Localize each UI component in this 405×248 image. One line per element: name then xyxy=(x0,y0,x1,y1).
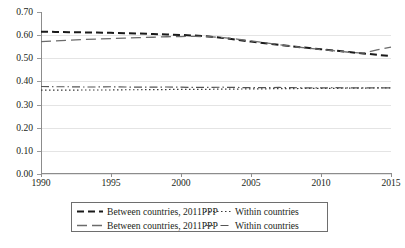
y-axis-tick xyxy=(37,105,41,106)
x-axis-tick-label: 2005 xyxy=(231,178,271,188)
x-axis-tick-label: 2015 xyxy=(371,178,405,188)
y-axis-tick xyxy=(37,151,41,152)
y-axis-tick-label: 0.10 xyxy=(0,146,33,156)
legend-item-label: Between countries, 2011PPP xyxy=(107,220,218,231)
gridline xyxy=(41,81,391,82)
y-axis-tick-label: 0.40 xyxy=(0,76,33,86)
y-axis-tick-label: 0.70 xyxy=(0,7,33,17)
x-axis-tick-label: 2010 xyxy=(301,178,341,188)
y-axis-tick xyxy=(37,12,41,13)
x-axis-tick-label: 1990 xyxy=(21,178,61,188)
x-axis-tick-label: 2000 xyxy=(161,178,201,188)
legend-item: Within countries xyxy=(204,218,299,232)
legend-item: Between countries, 2011PPP xyxy=(76,218,218,232)
legend-line-swatch xyxy=(204,220,232,231)
legend-item: Between countries, 2011PPP xyxy=(76,204,218,218)
legend-line-swatch xyxy=(204,206,232,217)
gridline xyxy=(41,58,391,59)
chart-legend: Between countries, 2011PPPWithin countri… xyxy=(71,202,328,232)
y-axis-tick-label: 0.20 xyxy=(0,123,33,133)
plot-area xyxy=(41,12,391,174)
gridline xyxy=(41,151,391,152)
legend-item-label: Within countries xyxy=(235,220,299,231)
legend-line-swatch xyxy=(76,206,104,217)
gridline xyxy=(41,35,391,36)
y-axis-tick xyxy=(37,58,41,59)
y-axis-line xyxy=(41,12,42,174)
gridline xyxy=(41,128,391,129)
legend-line-swatch xyxy=(76,220,104,231)
legend-item-label: Between countries, 2011PPP xyxy=(107,206,218,217)
gridline xyxy=(41,174,391,175)
y-axis-tick xyxy=(37,35,41,36)
x-axis-line xyxy=(41,173,391,174)
legend-item: Within countries xyxy=(204,204,299,218)
legend-item-label: Within countries xyxy=(235,206,299,217)
y-axis-tick xyxy=(37,128,41,129)
y-axis-tick xyxy=(37,81,41,82)
y-axis-tick-label: 0.50 xyxy=(0,53,33,63)
gridline xyxy=(41,105,391,106)
y-axis-tick-label: 0.60 xyxy=(0,30,33,40)
y-axis-tick-label: 0.30 xyxy=(0,100,33,110)
x-axis-tick-label: 1995 xyxy=(91,178,131,188)
